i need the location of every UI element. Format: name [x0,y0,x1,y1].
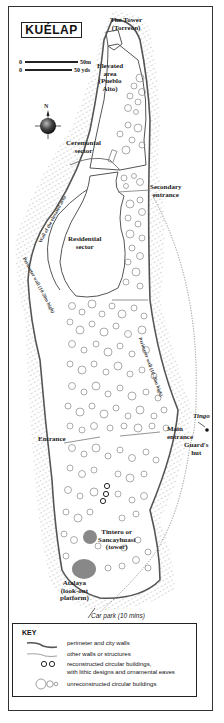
label-tingo: Tingo [193,413,210,421]
key-item-reconstructed: reconstructed circular buildings, [67,661,151,668]
compass-north-label: N [44,103,48,111]
unreconstructed-circle-symbol-3 [54,682,58,686]
scale-label-metric: 50m [80,59,91,65]
label-residential-sector: Residential sector [68,236,101,251]
label-tintero: Tintero or Sancayhuasi (tower) [98,529,135,552]
other-wall-symbol [27,654,57,657]
map-key: KEY perimeter and city walls other walls… [12,623,197,697]
key-item-reconstructed-cont: with lithic designs and ornamental eaves [67,669,175,676]
label-main-entrance: Main entrance [167,426,193,441]
atalaya-platform [72,559,96,579]
reconstructed-circle-symbol-2 [49,661,54,666]
label-atalaya: Atalaya (look-out platform) [60,580,89,603]
guards-hut-marker [205,428,209,432]
key-item-perimeter-walls: perimeter and city walls [67,640,130,647]
scale-label-imperial: 50 yds [74,67,90,73]
perimeter-wall-symbol [27,643,57,648]
unreconstructed-circle-symbol-1 [36,679,46,689]
scale-bar [25,62,78,70]
label-elevated-area: Elevated area (Pueblo Alto) [97,63,123,93]
key-item-unreconstructed: unreconstructed circular buildings [67,681,156,688]
label-entrance: Entrance [38,436,66,444]
unreconstructed-circle-symbol-2 [47,681,53,687]
key-item-other-walls: other walls or structures [67,651,131,658]
reconstructed-circle-symbol-1 [41,661,46,666]
scale-zero-imperial: 0 [19,67,22,73]
compass-rose [35,110,61,139]
label-guards-hut: Guard's hut [184,442,209,457]
scale-zero-metric: 0 [19,59,22,65]
label-car-park: Car park (10 mins) [91,612,145,619]
label-secondary-entrance: Secondary entrance [150,184,182,199]
label-ceremonial-sector: Ceremonial sector [66,140,101,155]
tintero-tower [83,530,97,544]
tingo-arrow [198,422,205,427]
label-tower: The Tower (Torreón) [110,17,142,32]
map-title: KUÉLAP [21,22,82,38]
